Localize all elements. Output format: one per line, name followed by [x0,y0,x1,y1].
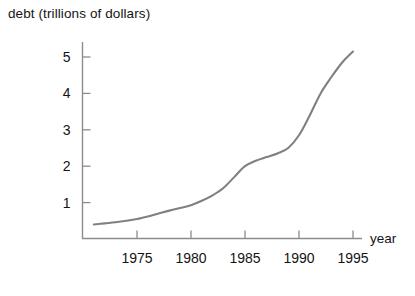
y-axis-tick-label: 4 [53,86,71,100]
debt-series-line [94,52,353,225]
x-axis-tick-label: 1980 [169,251,213,265]
y-axis-tick-label: 5 [53,50,71,64]
x-axis-tick-label: 1975 [115,251,159,265]
x-axis-ticks [137,231,353,239]
y-axis-tick-label: 1 [53,196,71,210]
y-axis-ticks [83,57,91,203]
x-axis-tick-label: 1995 [331,251,375,265]
y-axis-tick-label: 2 [53,159,71,173]
debt-line-chart: debt (trillions of dollars) 12345 197519… [0,0,415,296]
x-axis-title: year [370,232,396,246]
y-axis-tick-label: 3 [53,123,71,137]
axis-lines [82,42,362,239]
x-axis-tick-label: 1985 [223,251,267,265]
x-axis-tick-label: 1990 [277,251,321,265]
